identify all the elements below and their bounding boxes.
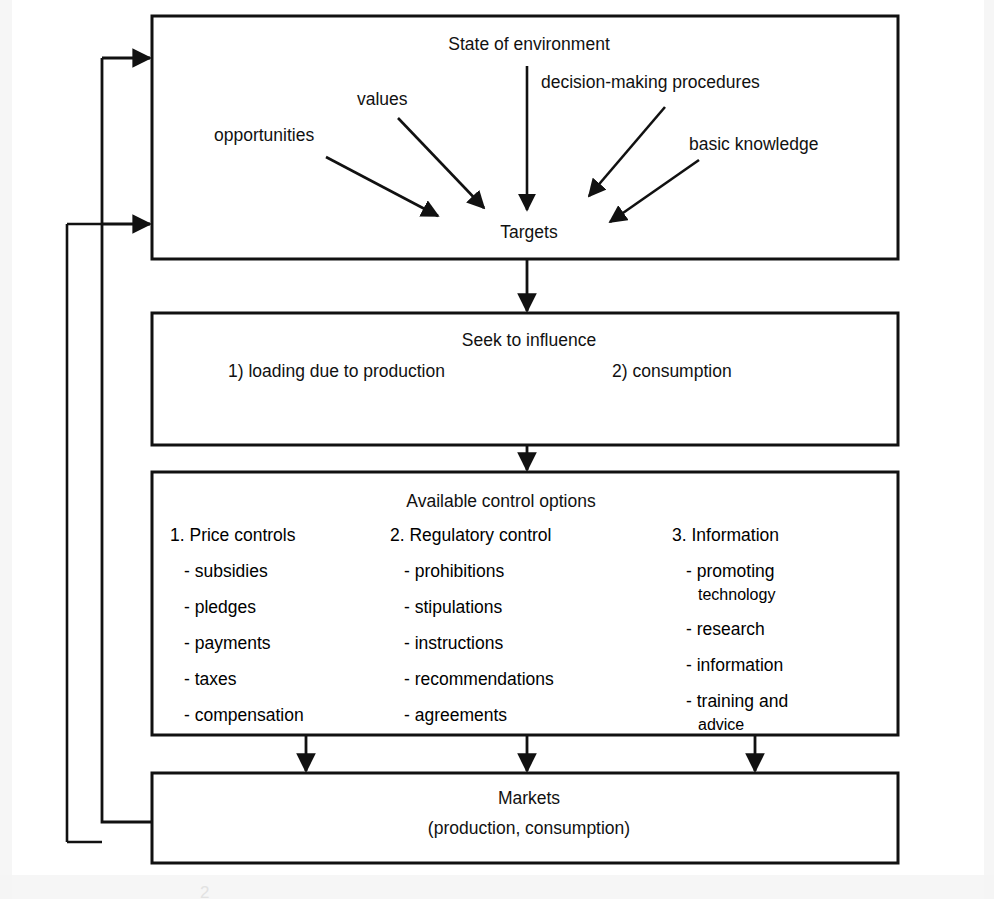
label-values: values [357,91,408,109]
column-information: 3. Information - promoting technology - … [672,525,788,734]
list-item: - pledges [184,597,304,618]
list-item: - training and [686,691,788,712]
arrow-basic-knowledge-to-targets [610,160,699,222]
label-loading-due-to-production: 1) loading due to production [228,363,445,381]
label-opportunities: opportunities [214,127,314,145]
flow-diagram-svg [0,0,994,899]
arrow-decision-making-procedures-to-targets [589,107,665,196]
feedback-line-markets-to-state [102,58,152,822]
list-item: - prohibitions [404,561,554,582]
list-item: - agreements [404,705,554,726]
box-title-seek-to-influence: Seek to influence [462,332,596,350]
column-regulatory-control: 2. Regulatory control - prohibitions - s… [390,525,554,726]
list-item: - instructions [404,633,554,654]
list-item: - subsidies [184,561,304,582]
column-heading-information: 3. Information [672,525,788,546]
list-item: - payments [184,633,304,654]
arrow-opportunities-to-targets [326,157,438,216]
list-item-continuation: advice [698,716,788,734]
column-heading-regulatory-control: 2. Regulatory control [390,525,554,546]
column-heading-price-controls: 1. Price controls [170,525,304,546]
label-basic-knowledge: basic knowledge [689,136,818,154]
arrow-values-to-targets [398,118,484,208]
list-item: - promoting [686,561,788,582]
node-targets: Targets [500,224,557,242]
column-price-controls: 1. Price controls - subsidies - pledges … [170,525,304,726]
list-item: - information [686,655,788,676]
list-item-continuation: technology [698,586,788,604]
list-item: - compensation [184,705,304,726]
label-consumption: 2) consumption [612,363,732,381]
box-title-markets: Markets [498,790,560,808]
list-item: - recommendations [404,669,554,690]
diagram-page: State of environment opportunities value… [0,0,994,899]
list-item: - research [686,619,788,640]
box-title-available-control-options: Available control options [406,493,595,511]
label-decision-making-procedures: decision-making procedures [541,74,760,92]
list-item: - taxes [184,669,304,690]
list-item: - stipulations [404,597,554,618]
box-subtitle-markets: (production, consumption) [428,820,630,838]
box-title-state-of-environment: State of environment [448,36,609,54]
